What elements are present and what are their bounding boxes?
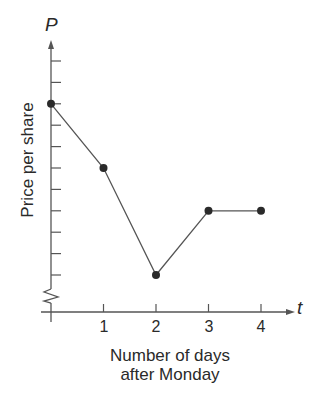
axes (41, 40, 295, 322)
y-axis-arrow (48, 40, 54, 49)
x-axis-variable: t (297, 297, 302, 319)
data-series (47, 100, 265, 279)
data-point (205, 207, 213, 215)
x-axis-title-line1: Number of days (70, 346, 270, 365)
x-tick-label-4: 4 (251, 318, 271, 336)
x-axis-title: Number of days after Monday (70, 346, 270, 384)
x-tick-label-3: 3 (199, 318, 219, 336)
x-tick-label-1: 1 (94, 318, 114, 336)
y-axis-title: Price per share (18, 80, 38, 240)
line-chart (0, 0, 311, 400)
x-axis-arrow (286, 309, 295, 315)
data-point (100, 164, 108, 172)
x-axis-title-line2: after Monday (70, 365, 270, 384)
data-point (257, 207, 265, 215)
data-point (152, 271, 160, 279)
x-tick-label-2: 2 (146, 318, 166, 336)
series-line (51, 104, 261, 275)
data-point (47, 100, 55, 108)
y-axis-variable: P (45, 14, 58, 36)
y-axis-break (44, 289, 58, 303)
